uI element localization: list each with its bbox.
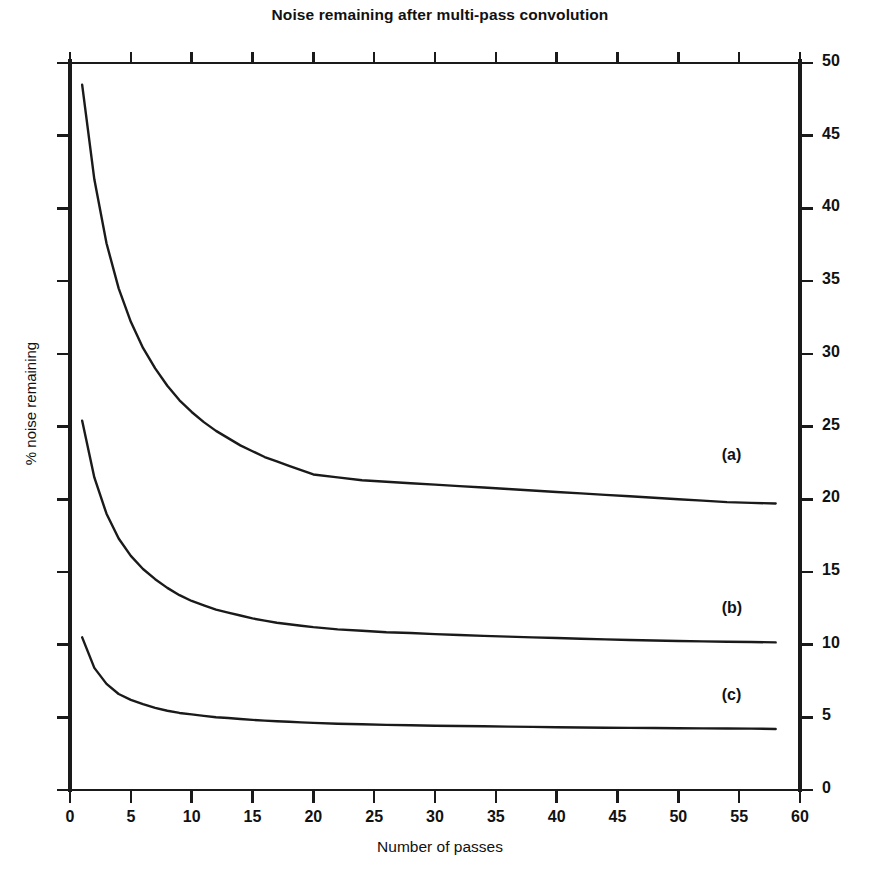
y-tick-label: 35 <box>822 270 840 288</box>
y-tick-label: 25 <box>822 416 840 434</box>
series-line-b <box>82 421 776 643</box>
x-tick-label: 30 <box>426 808 444 826</box>
series-label-b: (b) <box>722 599 742 617</box>
axes <box>64 59 804 792</box>
series-line-a <box>82 85 776 504</box>
x-tick-label: 60 <box>791 808 809 826</box>
x-tick-label: 40 <box>548 808 566 826</box>
x-tick-label: 5 <box>126 808 135 826</box>
y-tick-label: 50 <box>822 52 840 70</box>
series-label-a: (a) <box>722 446 742 464</box>
x-tick-label: 15 <box>244 808 262 826</box>
y-tick-label: 0 <box>822 779 831 797</box>
y-tick-label: 40 <box>822 197 840 215</box>
x-tick-label: 0 <box>66 808 75 826</box>
x-tick-label: 25 <box>365 808 383 826</box>
x-tick-label: 35 <box>487 808 505 826</box>
y-tick-label: 5 <box>822 706 831 724</box>
data-series <box>82 85 776 729</box>
y-tick-label: 45 <box>822 125 840 143</box>
x-tick-label: 20 <box>304 808 322 826</box>
plot-area <box>0 0 880 880</box>
y-tick-label: 30 <box>822 343 840 361</box>
x-tick-label: 10 <box>183 808 201 826</box>
y-tick-label: 15 <box>822 561 840 579</box>
series-label-c: (c) <box>722 686 742 704</box>
axis-ticks <box>57 52 813 803</box>
y-tick-label: 20 <box>822 488 840 506</box>
chart-figure: Noise remaining after multi-pass convolu… <box>0 0 880 880</box>
series-line-c <box>82 637 776 729</box>
y-tick-label: 10 <box>822 634 840 652</box>
x-tick-label: 55 <box>730 808 748 826</box>
x-tick-label: 45 <box>609 808 627 826</box>
x-tick-label: 50 <box>669 808 687 826</box>
